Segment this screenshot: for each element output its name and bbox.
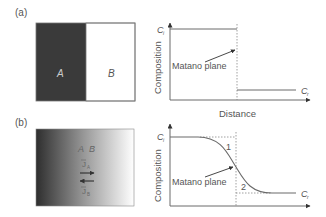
block-b-light xyxy=(86,23,135,101)
y-axis-label: Composition xyxy=(152,149,163,202)
panel-a: (a) A B Composition C i C r Matano plane… xyxy=(15,7,310,119)
panel-a-label: (a) xyxy=(15,7,27,18)
y-axis-label: Composition xyxy=(152,41,163,94)
svg-text:i: i xyxy=(163,30,165,36)
diffusion-diagram: (a) A B Composition C i C r Matano plane… xyxy=(0,0,326,217)
svg-text:r: r xyxy=(307,194,309,200)
chart-a: Composition C i C r Matano plane Distanc… xyxy=(152,23,310,119)
panel-b: (b) A B J A J B Composition C i C r 1 xyxy=(15,117,310,206)
region-2-label: 2 xyxy=(241,182,246,192)
annotation-arrow xyxy=(205,167,233,177)
chart-b: Composition C i C r 1 2 Matano plane xyxy=(152,124,310,206)
svg-text:B: B xyxy=(87,192,90,197)
block-a-dark xyxy=(36,23,86,101)
block-b-label: B xyxy=(89,144,95,154)
flux-b-label: J xyxy=(82,187,86,196)
x-axis-label: Distance xyxy=(219,108,256,119)
block-a-label: A xyxy=(77,144,84,154)
flux-a-label: J xyxy=(82,160,86,169)
block-a-label: A xyxy=(56,68,64,79)
matano-plane-annotation: Matano plane xyxy=(172,61,227,71)
region-1-label: 1 xyxy=(226,142,231,152)
block-b-label: B xyxy=(108,68,115,79)
svg-text:A: A xyxy=(87,165,90,170)
svg-text:r: r xyxy=(307,91,309,97)
matano-plane-annotation: Matano plane xyxy=(172,177,227,187)
panel-b-label: (b) xyxy=(15,117,27,128)
svg-text:i: i xyxy=(163,137,165,143)
